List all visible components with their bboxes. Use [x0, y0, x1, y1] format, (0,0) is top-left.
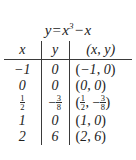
cell-ordered-pair: (2, 6): [69, 129, 132, 145]
column-header-y: y: [41, 41, 69, 60]
cell-ordered-pair: (0, 0): [69, 78, 132, 94]
values-table: x y (x, y) −10(−1, 0)00(0, 0)12−38(12, −…: [4, 41, 132, 145]
negative-sign: −: [92, 95, 100, 110]
minus-sign: −: [74, 22, 85, 38]
negative-sign: −: [48, 95, 56, 110]
table-header-row: x y (x, y): [4, 41, 132, 60]
table-of-values-figure: y=x3−x x y (x, y) −10(−1, 0)00(0, 0)12−3…: [0, 0, 136, 160]
equation-title: y=x3−x: [0, 21, 136, 39]
table-row: 10(1, 0): [4, 113, 132, 129]
cell-y-value: 0: [41, 60, 69, 79]
cell-ordered-pair: (12, −38): [69, 94, 132, 113]
equation-lhs: y: [45, 22, 52, 38]
column-header-xy: (x, y): [69, 41, 132, 60]
ordered-pair: (12, −38): [76, 95, 111, 110]
table-row: −10(−1, 0): [4, 60, 132, 79]
table-header: x y (x, y): [4, 41, 132, 60]
fraction: −38: [48, 95, 61, 110]
cell-y-value: −38: [41, 94, 69, 113]
table-row: 00(0, 0): [4, 78, 132, 94]
cell-x-value: −1: [4, 60, 41, 79]
equals-sign: =: [52, 22, 63, 38]
column-header-x: x: [4, 41, 41, 60]
cell-x-value: 2: [4, 129, 41, 145]
fraction-denominator: 2: [80, 103, 85, 112]
cell-ordered-pair: (−1, 0): [69, 60, 132, 79]
fraction-denominator: 8: [100, 103, 105, 112]
cell-y-value: 0: [41, 113, 69, 129]
fraction: 12: [80, 95, 85, 110]
fraction: −38: [92, 95, 105, 110]
equation-term: x: [84, 22, 91, 38]
ordered-pair: (1, 0): [76, 113, 106, 128]
table-row: 26(2, 6): [4, 129, 132, 145]
ordered-pair: (0, 0): [76, 78, 106, 93]
fraction: 12: [20, 95, 25, 110]
cell-x-value: 1: [4, 113, 41, 129]
ordered-pair: (2, 6): [76, 129, 106, 144]
cell-x-value: 12: [4, 94, 41, 113]
table-row: 12−38(12, −38): [4, 94, 132, 113]
ordered-pair: (−1, 0): [76, 62, 116, 77]
fraction-denominator: 8: [56, 103, 61, 112]
cell-x-value: 0: [4, 78, 41, 94]
cell-y-value: 0: [41, 78, 69, 94]
fraction-denominator: 2: [20, 103, 25, 112]
table-body: −10(−1, 0)00(0, 0)12−38(12, −38)10(1, 0)…: [4, 60, 132, 145]
cell-y-value: 6: [41, 129, 69, 145]
cell-ordered-pair: (1, 0): [69, 113, 132, 129]
